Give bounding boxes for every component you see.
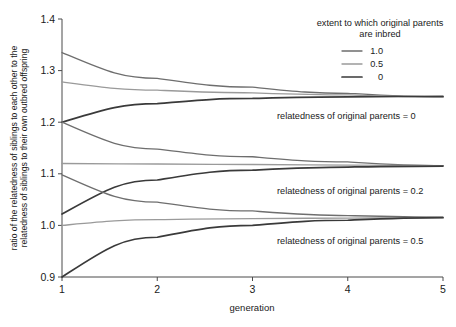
y-tick-label: 1.0 <box>40 219 55 231</box>
y-axis-title-line2: relatedness of siblings to their own out… <box>19 48 29 247</box>
series-line <box>62 53 443 97</box>
x-tick-label: 3 <box>250 283 256 295</box>
series-annotation: relatedness of original parents = 0.5 <box>277 236 423 246</box>
series-annotation: relatedness of original parents = 0.2 <box>277 186 423 196</box>
series-line <box>62 122 443 165</box>
y-tick-label: 0.9 <box>40 271 55 283</box>
series-line <box>62 82 443 97</box>
chart-container: 0.91.01.11.21.31.4 12345 ratio of the re… <box>0 0 456 327</box>
y-tick-label: 1.4 <box>40 13 55 25</box>
y-tick-label: 1.3 <box>40 64 55 76</box>
x-tick-label: 4 <box>345 283 351 295</box>
y-axis-ticks <box>58 19 62 277</box>
y-tick-labels: 0.91.01.11.21.31.4 <box>40 13 55 283</box>
y-axis-title-line1: ratio of the relatedness of siblings to … <box>9 46 19 251</box>
legend-label: 1.0 <box>370 46 383 56</box>
line-chart: 0.91.01.11.21.31.4 12345 ratio of the re… <box>0 0 456 327</box>
x-tick-label: 2 <box>154 283 160 295</box>
series-line <box>62 218 443 277</box>
legend-entries: 1.00.50 <box>342 46 383 82</box>
x-axis-title: generation <box>230 302 275 313</box>
x-tick-label: 1 <box>59 283 65 295</box>
series-annotation: relatedness of original parents = 0 <box>277 111 416 121</box>
x-tick-label: 5 <box>440 283 446 295</box>
y-tick-label: 1.2 <box>40 116 55 128</box>
y-axis-title: ratio of the relatedness of siblings to … <box>9 46 29 251</box>
legend-title-line2: are inbred <box>359 29 400 39</box>
y-tick-label: 1.1 <box>40 167 55 179</box>
x-axis-ticks <box>62 277 443 281</box>
legend-label: 0.5 <box>370 59 383 69</box>
series-annotations: relatedness of original parents = 0relat… <box>277 111 423 246</box>
x-tick-labels: 12345 <box>59 283 446 295</box>
legend-title-line1: extent to which original parents <box>317 18 444 28</box>
legend-label: 0 <box>378 72 383 82</box>
legend: extent to which original parents are inb… <box>317 18 444 82</box>
